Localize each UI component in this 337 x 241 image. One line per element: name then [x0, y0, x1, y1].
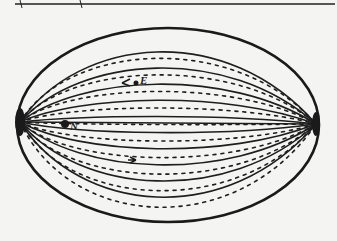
label-e: E	[140, 74, 147, 86]
point-e-dot	[134, 81, 139, 86]
arrow-left-icon	[122, 79, 130, 86]
right-pole	[312, 112, 320, 136]
solid-field-line	[20, 52, 316, 124]
point-n-dot	[61, 120, 69, 128]
arrow-right-icon	[128, 157, 136, 163]
field-diagram	[0, 0, 337, 241]
label-n: N	[70, 120, 78, 132]
solid-field-line	[20, 122, 316, 181]
left-pole	[15, 108, 25, 136]
